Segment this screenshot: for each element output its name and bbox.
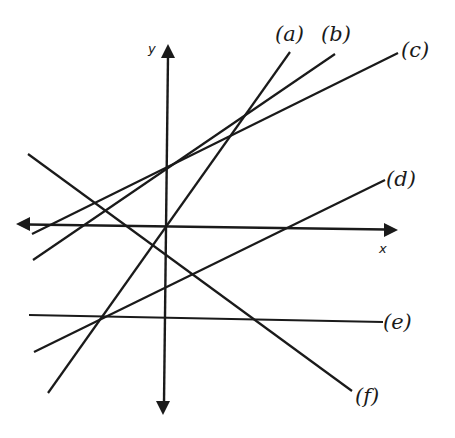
y-axis-up-arrow-icon — [161, 44, 175, 58]
line-e — [29, 315, 383, 322]
label-line-a: (a) — [275, 22, 304, 46]
y-axis-label: y — [147, 41, 156, 56]
label-line-f: (f) — [355, 384, 379, 408]
x-axis-label: x — [378, 241, 387, 256]
label-line-d: (d) — [386, 167, 416, 191]
x-axis — [16, 217, 398, 237]
line-f — [28, 154, 352, 391]
line-a — [48, 52, 290, 393]
label-line-b: (b) — [321, 22, 351, 46]
line-c — [32, 53, 398, 234]
y-axis — [156, 44, 175, 415]
x-axis-right-arrow-icon — [384, 223, 398, 237]
coordinate-diagram: x y (a) (b) (c) (d) (e) (f) — [0, 0, 455, 438]
label-line-e: (e) — [383, 310, 412, 334]
label-line-c: (c) — [401, 38, 429, 62]
x-axis-left-arrow-icon — [16, 217, 30, 231]
y-axis-down-arrow-icon — [156, 401, 170, 415]
